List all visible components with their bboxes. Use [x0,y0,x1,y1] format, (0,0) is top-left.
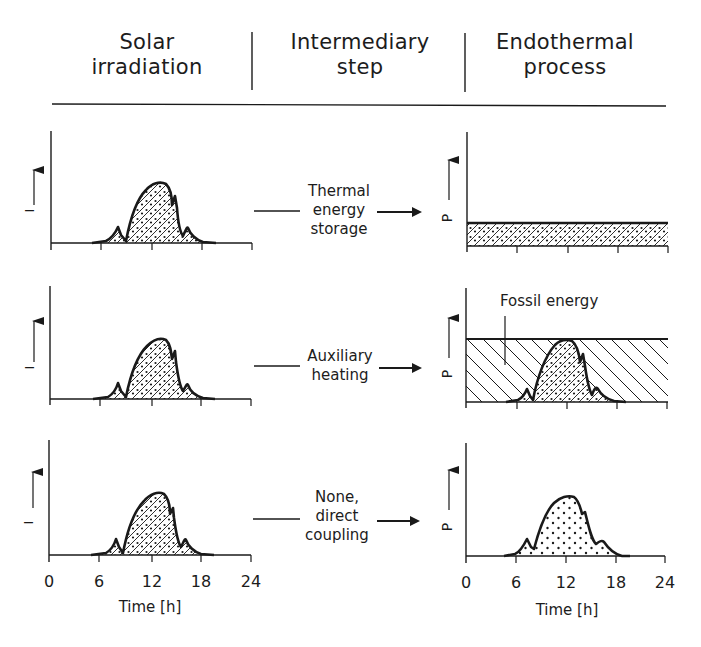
row1-right-chart [467,132,668,253]
diagram-canvas [0,0,701,647]
row2-right-ylabel: P [439,370,455,378]
x-tick: 18 [601,573,631,592]
x-tick: 6 [501,573,531,592]
x-tick: 18 [186,572,216,591]
row2-step-label: Auxiliary heating [300,347,380,385]
row1-left-chart [34,131,252,250]
fossil-energy-label: Fossil energy [500,292,598,310]
header-intermediary-step: Intermediary step [260,30,460,80]
x-tick: 12 [137,572,167,591]
row3-left-chart [33,440,251,562]
row1-right-ylabel: P [439,214,455,222]
header-solar-irradiation: Solar irradiation [62,30,232,80]
row1-step-label: Thermal energy storage [300,182,378,239]
row3-right-ylabel: P [439,523,455,531]
x-tick: 12 [551,573,581,592]
row2-left-chart [34,286,251,406]
row3-left-ylabel: I [21,521,36,525]
x-axis-title-right: Time [h] [517,601,617,619]
x-tick: 24 [236,572,266,591]
step-line: heating [300,366,380,385]
header-line: step [260,55,460,80]
header-line: Endothermal [470,30,660,55]
step-line: storage [300,220,378,239]
row1-left-ylabel: I [22,209,37,213]
row3-step-label: None, direct coupling [298,488,376,545]
header-line: process [470,55,660,80]
row3-right-chart [466,443,665,563]
x-tick: 0 [451,573,481,592]
step-line: None, [298,488,376,507]
header-line: Intermediary [260,30,460,55]
header-endothermal-process: Endothermal process [470,30,660,80]
x-tick: 0 [34,572,64,591]
step-line: direct [298,507,376,526]
step-line: Auxiliary [300,347,380,366]
step-line: coupling [298,526,376,545]
x-tick: 6 [84,572,114,591]
header-line: irradiation [62,55,232,80]
step-line: energy [300,201,378,220]
x-axis-title-left: Time [h] [100,598,200,616]
x-tick: 24 [650,573,680,592]
header-rule [52,104,666,106]
step-line: Thermal [300,182,378,201]
header-line: Solar [62,30,232,55]
row2-left-ylabel: I [22,366,37,370]
